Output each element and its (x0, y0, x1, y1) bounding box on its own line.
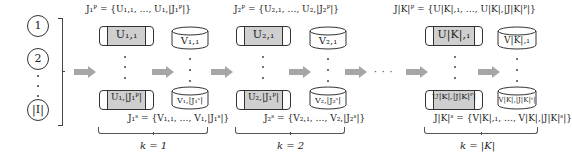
ellipsis-dot (262, 66, 264, 68)
ellipsis-dot (37, 85, 39, 87)
group-ellipsis: · · · (374, 67, 393, 77)
arrow-right-icon (74, 66, 96, 78)
u-block-label: U|K|,₁ (426, 28, 482, 41)
ellipsis-dot (189, 58, 191, 60)
ellipsis-dot (516, 80, 518, 82)
arrow-right-icon (345, 66, 367, 78)
u-block-label: U₂,|J₁ᴾ| (237, 92, 290, 102)
arrow-right-icon (289, 66, 311, 78)
u-block-label: U₁,₁ (100, 28, 153, 41)
ellipsis-dot (37, 95, 39, 97)
group-brace (424, 127, 538, 134)
ellipsis-dot (262, 56, 264, 58)
v-block-label: V₂,₁ (309, 35, 347, 46)
ellipsis-dot (327, 69, 329, 71)
u-block-label: U₁,|J₁ᴾ| (100, 92, 153, 102)
ellipsis-dot (124, 77, 126, 79)
secondary-set-label: J|K|ˢ = {V|K|,₁, …, V|K|,|J|K|ˢ|} (434, 113, 572, 123)
u-block-top: U₁,₁ (99, 26, 154, 46)
arrow-right-icon (152, 66, 174, 78)
group-brace (98, 127, 208, 134)
v-block-label: V|K|,|J|K|ˢ| (497, 96, 537, 104)
group-brace (235, 127, 345, 134)
ellipsis-dot (454, 66, 456, 68)
ellipsis-dot (516, 69, 518, 71)
ellipsis-dot (327, 58, 329, 60)
arrow-right-icon (211, 66, 233, 78)
item-circle-last: |I| (27, 99, 49, 121)
ellipsis-dot (454, 56, 456, 58)
u-block-bottom: U|K|,|J|K|ᴾ| (425, 90, 483, 110)
k-label: k = 2 (277, 140, 304, 151)
primary-set-label: J₂ᴾ = {U₂,₁, …, U₂,|J₂ᴾ|} (234, 4, 339, 14)
u-block-bottom: U₁,|J₁ᴾ| (99, 90, 154, 110)
secondary-set-label: J₂ˢ = {V₂,₁, …, V₂,|J₂ˢ|} (264, 113, 365, 123)
ellipsis-dot (189, 69, 191, 71)
v-block-label: V₁,₁ (171, 35, 209, 46)
arrow-right-icon (406, 66, 428, 78)
secondary-set-label: J₁ˢ = {V₁,₁, …, V₁,|J₁ˢ|} (128, 113, 229, 123)
bracket-tick (62, 71, 65, 72)
ellipsis-dot (262, 77, 264, 79)
k-label: k = 1 (140, 140, 167, 151)
ellipsis-dot (37, 75, 39, 77)
u-block-top: U|K|,₁ (425, 26, 483, 46)
u-block-bottom: U₂,|J₁ᴾ| (236, 90, 291, 110)
item-circle-1: 1 (27, 15, 49, 37)
item-circle-2: 2 (27, 48, 49, 70)
u-block-label: U|K|,|J|K|ᴾ| (426, 92, 482, 101)
ellipsis-dot (189, 80, 191, 82)
ellipsis-dot (454, 77, 456, 79)
ellipsis-dot (124, 66, 126, 68)
u-block-top: U₂,₁ (236, 26, 291, 46)
arrow-right-icon (478, 66, 500, 78)
k-label: k = |K| (460, 140, 495, 151)
u-block-label: U₂,₁ (237, 28, 290, 41)
ellipsis-dot (327, 80, 329, 82)
ellipsis-dot (124, 56, 126, 58)
v-block-label: V₁,|J₁ˢ| (171, 96, 209, 105)
items-bracket (58, 18, 63, 126)
v-block-label: V|K|,₁ (497, 35, 537, 45)
ellipsis-dot (516, 58, 518, 60)
primary-set-label: J₁ᴾ = {U₁,₁, …, U₁,|J₁ᴾ|} (86, 4, 191, 14)
v-block-label: V₂,|J₂ˢ| (309, 96, 347, 105)
primary-set-label: J|K|ᴾ = {U|K|,₁, …, U|K|,|J|K|ᴾ|} (394, 4, 536, 14)
